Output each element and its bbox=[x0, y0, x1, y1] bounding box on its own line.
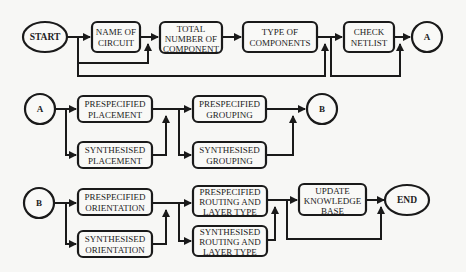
box-label-line: PLACEMENT bbox=[88, 156, 143, 166]
prespecified-routing-box: PRESPECIFIED ROUTING AND LAYER TYPE bbox=[193, 186, 267, 217]
start-terminal: START bbox=[23, 22, 67, 52]
box-label-line: SYNTHESISED bbox=[85, 145, 146, 155]
box-label-line: CIRCUIT bbox=[98, 38, 135, 48]
box-label-line: PRESPECIFIED bbox=[199, 99, 261, 109]
prespecified-orientation-box: PRESPECIFIED ORIENTATION bbox=[78, 189, 152, 215]
box-label-line: SYNTHESISED bbox=[199, 145, 260, 155]
end-label: END bbox=[397, 195, 417, 205]
connector-label: A bbox=[424, 32, 431, 42]
box-label-line: PRESPECIFIED bbox=[84, 192, 146, 202]
box-label-line: NUMBER OF bbox=[165, 34, 217, 44]
box-label-line: ORIENTATION bbox=[85, 245, 145, 255]
box-label-line: COMPONENT bbox=[163, 44, 220, 54]
flowchart-canvas: START NAME OF CIRCUIT TOTAL NUMBER OF CO… bbox=[0, 0, 466, 272]
synthesised-routing-box: SYNTHESISED ROUTING AND LAYER TYPE bbox=[193, 226, 267, 257]
box-label-line: LAYER TYPE bbox=[203, 247, 257, 257]
box-label-line: LAYER TYPE bbox=[203, 207, 257, 217]
box-label-line: NETLIST bbox=[351, 38, 388, 48]
type-of-components-box: TYPE OF COMPONENTS bbox=[243, 22, 317, 52]
connector-label: B bbox=[36, 198, 42, 208]
end-terminal: END bbox=[385, 185, 429, 215]
check-netlist-box: CHECK NETLIST bbox=[344, 22, 394, 52]
total-number-of-component-box: TOTAL NUMBER OF COMPONENT bbox=[160, 22, 222, 54]
connector-label: B bbox=[319, 104, 325, 114]
box-label-line: COMPONENTS bbox=[249, 38, 310, 48]
box-label-line: TYPE OF bbox=[262, 27, 298, 37]
connector-b-in: B bbox=[24, 188, 54, 218]
prespecified-grouping-box: PRESPECIFIED GROUPING bbox=[193, 96, 266, 122]
box-label-line: ROUTING AND bbox=[199, 237, 261, 247]
box-label-line: ORIENTATION bbox=[85, 203, 145, 213]
connector-a-out: A bbox=[412, 22, 442, 52]
box-label-line: TOTAL bbox=[177, 24, 206, 34]
connector-a-in: A bbox=[25, 94, 55, 124]
box-label-line: ROUTING AND bbox=[199, 197, 261, 207]
box-label-line: PRESPECIFIED bbox=[84, 99, 146, 109]
row-3: B PRESPECIFIED ORIENTATION SYNTHESISED O… bbox=[24, 184, 429, 257]
name-of-circuit-box: NAME OF CIRCUIT bbox=[92, 22, 140, 52]
box-label-line: PRESPECIFIED bbox=[199, 187, 261, 197]
row-1: START NAME OF CIRCUIT TOTAL NUMBER OF CO… bbox=[23, 22, 442, 76]
box-label-line: GROUPING bbox=[206, 110, 253, 120]
box-label-line: CHECK bbox=[354, 27, 385, 37]
synthesised-orientation-box: SYNTHESISED ORIENTATION bbox=[78, 231, 152, 257]
box-label-line: KNOWLEDGE bbox=[304, 196, 362, 206]
box-label-line: GROUPING bbox=[206, 156, 253, 166]
box-label-line: SYNTHESISED bbox=[85, 234, 146, 244]
row-2: A PRESPECIFIED PLACEMENT SYNTHESISED PLA… bbox=[25, 94, 337, 168]
prespecified-placement-box: PRESPECIFIED PLACEMENT bbox=[78, 96, 152, 122]
box-label-line: SYNTHESISED bbox=[200, 227, 261, 237]
synthesised-grouping-box: SYNTHESISED GROUPING bbox=[193, 142, 266, 168]
box-label-line: BASE bbox=[321, 206, 345, 216]
box-label-line: PLACEMENT bbox=[88, 110, 143, 120]
start-label: START bbox=[30, 32, 61, 42]
box-label-line: NAME OF bbox=[96, 27, 136, 37]
connector-label: A bbox=[37, 104, 44, 114]
connector-b-out: B bbox=[307, 94, 337, 124]
box-label-line: UPDATE bbox=[315, 186, 350, 196]
synthesised-placement-box: SYNTHESISED PLACEMENT bbox=[78, 142, 152, 168]
update-knowledge-base-box: UPDATE KNOWLEDGE BASE bbox=[299, 184, 366, 216]
